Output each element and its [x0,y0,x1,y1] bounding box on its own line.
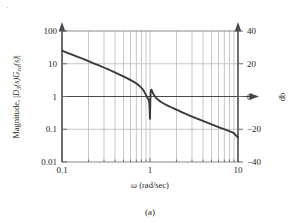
svg-text:0.01: 0.01 [41,157,57,167]
y-axis-title-left: Magnitude, |D3(s)Gco(s)| [11,55,22,139]
corner-mark: · [6,2,9,12]
svg-text:0.1: 0.1 [56,165,67,175]
svg-text:db: db [277,93,287,102]
svg-text:−20: −20 [247,124,262,134]
svg-text:10: 10 [234,165,244,175]
svg-text:40: 40 [247,26,257,36]
ylabel-prefix: Magnitude, | [11,96,21,139]
svg-text:1: 1 [148,165,153,175]
svg-text:100: 100 [44,26,58,36]
y-axis-title-right: db [277,93,287,102]
bode-plot-svg: 0.1110 0.010.1110100 −40−2002040 ω (rad/… [0,0,300,223]
left-axis-spine [59,22,66,162]
svg-text:−40: −40 [247,157,262,167]
figure-bode-magnitude-plot: 0.1110 0.010.1110100 −40−2002040 ω (rad/… [0,0,300,223]
figure-caption: (a) [145,207,155,217]
svg-text:0.1: 0.1 [46,124,57,134]
svg-text:Magnitude, |D3(s)Gco(s)|: Magnitude, |D3(s)Gco(s)| [11,55,22,139]
svg-text:10: 10 [48,59,58,69]
svg-text:20: 20 [247,59,257,69]
y-axis-ticks-right [238,31,243,162]
x-axis-title: ω (rad/sec) [131,180,169,190]
svg-text:1: 1 [53,92,58,102]
svg-text:ω (rad/sec): ω (rad/sec) [131,180,169,190]
x-axis-tick-labels: 0.1110 [56,165,243,175]
svg-text:0: 0 [247,92,252,102]
right-axis-spine [235,22,242,162]
y-axis-tick-labels-left: 0.010.1110100 [41,26,57,167]
